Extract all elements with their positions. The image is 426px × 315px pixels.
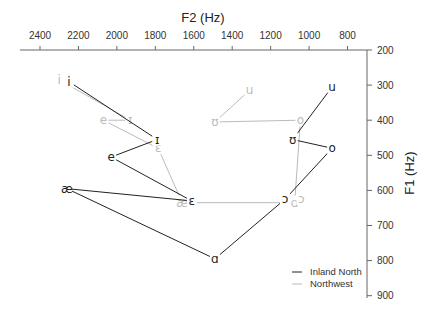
vowel-label: ɪ xyxy=(128,113,132,127)
series-line xyxy=(215,120,301,122)
series-line xyxy=(215,199,285,259)
y-tick-label: 700 xyxy=(377,220,394,231)
x-axis-title: F2 (Hz) xyxy=(181,10,224,25)
x-tick-label: 2200 xyxy=(67,30,90,41)
series-line xyxy=(285,148,332,199)
y-tick-label: 800 xyxy=(377,255,394,266)
plot-area: ieɪɛæɑɔoʊuiɪeɛæɑɔoʊu xyxy=(54,73,337,266)
series-northwest: ieɪɛæɑɔoʊu xyxy=(54,73,306,210)
vowel-chart: F2 (Hz) F1 (Hz) 240022002000180016001400… xyxy=(0,0,426,315)
vowel-label: e xyxy=(107,150,114,164)
vowel-label: ʊ xyxy=(289,133,296,147)
vowel-label: e xyxy=(100,113,107,127)
vowel-label: i xyxy=(58,73,61,87)
vowel-label: o xyxy=(328,141,335,155)
x-tick-label: 800 xyxy=(339,30,356,41)
x-tick-label: 1400 xyxy=(221,30,244,41)
vowel-label: ɔ xyxy=(298,192,305,206)
x-tick-label: 1200 xyxy=(260,30,283,41)
series-inland-north: iɪeɛæɑɔoʊu xyxy=(61,75,337,266)
vowel-label: u xyxy=(328,80,336,94)
y-tick-label: 600 xyxy=(377,185,394,196)
y-tick-label: 500 xyxy=(377,150,394,161)
series-line xyxy=(69,82,157,140)
vowel-label: u xyxy=(246,83,254,97)
y-tick-label: 400 xyxy=(377,115,394,126)
legend-label-northwest: Northwest xyxy=(310,278,353,289)
series-line xyxy=(158,148,182,202)
x-tick-label: 1600 xyxy=(183,30,206,41)
vowel-label: i xyxy=(67,75,70,89)
vowel-label: æ xyxy=(61,182,73,196)
x-tick-label: 1000 xyxy=(298,30,321,41)
y-axis: 200300400500600700800900 xyxy=(367,45,394,302)
x-tick-label: 2400 xyxy=(29,30,52,41)
vowel-label: ɔ xyxy=(282,192,289,206)
y-axis-title: F1 (Hz) xyxy=(402,151,417,194)
x-tick-label: 2000 xyxy=(106,30,129,41)
x-axis: 24002200200018001600140012001000800 xyxy=(20,30,367,50)
legend-label-inland-north: Inland North xyxy=(310,266,362,277)
series-line xyxy=(215,90,250,122)
y-tick-label: 200 xyxy=(377,45,394,56)
vowel-label: ɪ xyxy=(155,133,159,147)
vowel-label: ɑ xyxy=(211,252,219,266)
x-tick-label: 1800 xyxy=(144,30,167,41)
series-line xyxy=(111,140,157,158)
y-tick-label: 300 xyxy=(377,80,394,91)
vowel-label: ʊ xyxy=(211,115,218,129)
vowel-label: ɛ xyxy=(189,194,196,208)
y-tick-label: 900 xyxy=(377,290,394,301)
legend: Inland North Northwest xyxy=(292,266,362,289)
